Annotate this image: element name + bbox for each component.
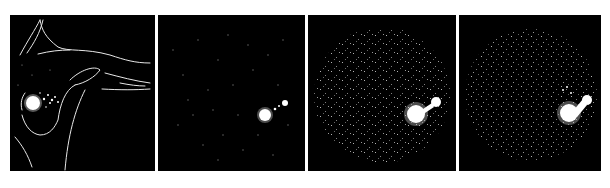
dense-scatter-image-1 <box>308 15 456 171</box>
outline-drawing-image <box>10 15 155 171</box>
panel-dense-scatter-2 <box>459 15 601 171</box>
dense-scatter-image-2 <box>459 15 601 171</box>
panel-sparse-scatter <box>158 15 305 171</box>
sparse-scatter-image <box>158 15 305 171</box>
panel-outline-drawing <box>10 15 155 171</box>
panel-dense-scatter-1 <box>308 15 456 171</box>
